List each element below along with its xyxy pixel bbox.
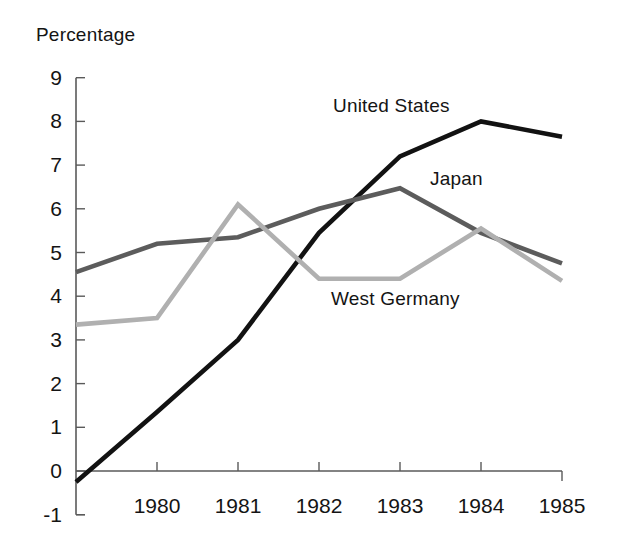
y-axis-tick-label: 8 bbox=[28, 110, 62, 131]
line-chart: Percentage 9876543210-1 1980198119821983… bbox=[0, 0, 622, 557]
y-axis-tick-label: 7 bbox=[28, 154, 62, 175]
y-axis-tick-label: -1 bbox=[28, 504, 62, 525]
y-axis-tick-label: 0 bbox=[28, 460, 62, 481]
series-label-west-germany: West Germany bbox=[331, 288, 460, 310]
x-axis-tick-label: 1985 bbox=[517, 495, 607, 516]
x-axis-tick-label: 1983 bbox=[355, 495, 445, 516]
series-line-west-germany bbox=[76, 204, 562, 324]
y-axis-tick-label: 2 bbox=[28, 373, 62, 394]
x-axis-tick-label: 1984 bbox=[436, 495, 526, 516]
x-axis-tick-label: 1981 bbox=[193, 495, 283, 516]
y-axis-tick-label: 5 bbox=[28, 242, 62, 263]
y-axis-tick-label: 9 bbox=[28, 67, 62, 88]
y-axis-tick-label: 3 bbox=[28, 329, 62, 350]
x-axis-tick-label: 1982 bbox=[274, 495, 364, 516]
series-label-united-states: United States bbox=[333, 95, 450, 117]
y-axis-tick-label: 4 bbox=[28, 285, 62, 306]
y-axis-tick-label: 1 bbox=[28, 416, 62, 437]
y-axis-tick-label: 6 bbox=[28, 198, 62, 219]
plot-area bbox=[0, 0, 622, 557]
series-line-united-states bbox=[76, 121, 562, 482]
x-axis-tick-label: 1980 bbox=[112, 495, 202, 516]
series-label-japan: Japan bbox=[430, 168, 483, 190]
axes bbox=[76, 78, 562, 515]
data-series-group bbox=[76, 121, 562, 482]
